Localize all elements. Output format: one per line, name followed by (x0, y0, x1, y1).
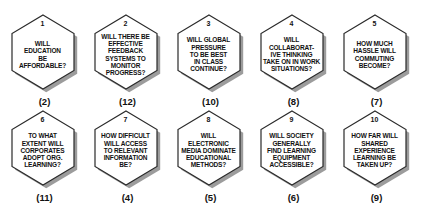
vote-count: (11) (36, 192, 52, 203)
hexagon-row-bottom: 6 TO WHAT EXTENT WILL CORPORATES ADOPT O… (0, 110, 424, 203)
hexagon-question: WILL THERE BE EFFECTIVE FEEDBACK SYSTEMS… (101, 33, 150, 77)
hexagon-shape: 3 WILL GLOBAL PRESSURE TO BE BEST IN CLA… (176, 14, 246, 94)
hexagon-number: 1 (41, 19, 45, 28)
hexagon-question: WILL GLOBAL PRESSURE TO BE BEST IN CLASS… (187, 36, 230, 72)
hexagon-question: WILL COLLABORAT- IVE THINKING TAKE ON IN… (263, 36, 320, 72)
hexagon-row-top: 1 WILL EDUCATION BE AFFORDABLE? (2) 2 WI… (0, 0, 424, 107)
hexagon-shape: 5 HOW MUCH HASSLE WILL COMMUTING BECOME? (342, 14, 412, 94)
hexagon-card: 5 HOW MUCH HASSLE WILL COMMUTING BECOME?… (335, 14, 418, 107)
hexagon-number: 4 (290, 19, 294, 28)
vote-count: (9) (371, 192, 383, 203)
hexagon-question: WILL ELECTRONIC MEDIA DOMINATE EDUCATION… (181, 132, 236, 168)
hexagon-content: 1 WILL EDUCATION BE AFFORDABLE? (12, 15, 74, 89)
hexagon-number: 7 (124, 115, 128, 124)
hexagon-shape: 1 WILL EDUCATION BE AFFORDABLE? (10, 14, 80, 94)
hexagon-shape: 10 HOW FAR WILL SHARED EXPERIENCE LEARNI… (342, 110, 412, 190)
hexagon-number: 8 (207, 115, 211, 124)
hexagon-content: 3 WILL GLOBAL PRESSURE TO BE BEST IN CLA… (178, 15, 240, 89)
hexagon-card: 1 WILL EDUCATION BE AFFORDABLE? (2) (3, 14, 86, 107)
hexagon-content: 6 TO WHAT EXTENT WILL CORPORATES ADOPT O… (12, 111, 74, 185)
hexagon-content: 2 WILL THERE BE EFFECTIVE FEEDBACK SYSTE… (95, 15, 157, 89)
hexagon-content: 8 WILL ELECTRONIC MEDIA DOMINATE EDUCATI… (178, 111, 240, 185)
hexagon-question-board: 1 WILL EDUCATION BE AFFORDABLE? (2) 2 WI… (0, 0, 424, 209)
hexagon-question: HOW MUCH HASSLE WILL COMMUTING BECOME? (353, 40, 395, 69)
vote-count: (4) (122, 192, 134, 203)
hexagon-number: 9 (290, 115, 294, 124)
hexagon-content: 7 HOW DIFFICULT WILL ACCESS TO RELEVANT … (95, 111, 157, 185)
hexagon-question: HOW DIFFICULT WILL ACCESS TO RELEVANT IN… (101, 132, 150, 168)
vote-count: (2) (39, 96, 51, 107)
hexagon-card: 3 WILL GLOBAL PRESSURE TO BE BEST IN CLA… (169, 14, 252, 107)
hexagon-shape: 4 WILL COLLABORAT- IVE THINKING TAKE ON … (259, 14, 329, 94)
hexagon-card: 7 HOW DIFFICULT WILL ACCESS TO RELEVANT … (86, 110, 169, 203)
vote-count: (5) (205, 192, 217, 203)
hexagon-number: 3 (207, 19, 211, 28)
vote-count: (12) (119, 96, 136, 107)
hexagon-card: 8 WILL ELECTRONIC MEDIA DOMINATE EDUCATI… (169, 110, 252, 203)
hexagon-content: 4 WILL COLLABORAT- IVE THINKING TAKE ON … (261, 15, 323, 89)
hexagon-question: TO WHAT EXTENT WILL CORPORATES ADOPT ORG… (21, 132, 65, 168)
hexagon-shape: 6 TO WHAT EXTENT WILL CORPORATES ADOPT O… (10, 110, 80, 190)
hexagon-number: 6 (41, 115, 45, 124)
hexagon-card: 4 WILL COLLABORAT- IVE THINKING TAKE ON … (252, 14, 335, 107)
hexagon-content: 10 HOW FAR WILL SHARED EXPERIENCE LEARNI… (344, 111, 406, 185)
hexagon-content: 9 WILL SOCIETY GENERALLY FIND LEARNING E… (261, 111, 323, 185)
vote-count: (7) (371, 96, 383, 107)
hexagon-question: WILL SOCIETY GENERALLY FIND LEARNING EQU… (267, 132, 316, 168)
hexagon-card: 10 HOW FAR WILL SHARED EXPERIENCE LEARNI… (335, 110, 418, 203)
vote-count: (6) (288, 192, 300, 203)
hexagon-shape: 2 WILL THERE BE EFFECTIVE FEEDBACK SYSTE… (93, 14, 163, 94)
hexagon-card: 9 WILL SOCIETY GENERALLY FIND LEARNING E… (252, 110, 335, 203)
hexagon-question: WILL EDUCATION BE AFFORDABLE? (19, 40, 66, 69)
hexagon-shape: 7 HOW DIFFICULT WILL ACCESS TO RELEVANT … (93, 110, 163, 190)
hexagon-content: 5 HOW MUCH HASSLE WILL COMMUTING BECOME? (344, 15, 406, 89)
vote-count: (8) (288, 96, 300, 107)
hexagon-shape: 9 WILL SOCIETY GENERALLY FIND LEARNING E… (259, 110, 329, 190)
hexagon-card: 2 WILL THERE BE EFFECTIVE FEEDBACK SYSTE… (86, 14, 169, 107)
hexagon-card: 6 TO WHAT EXTENT WILL CORPORATES ADOPT O… (3, 110, 86, 203)
hexagon-number: 10 (371, 115, 379, 124)
vote-count: (10) (202, 96, 219, 107)
hexagon-shape: 8 WILL ELECTRONIC MEDIA DOMINATE EDUCATI… (176, 110, 246, 190)
hexagon-question: HOW FAR WILL SHARED EXPERIENCE LEARNING … (351, 132, 398, 168)
hexagon-number: 5 (373, 19, 377, 28)
hexagon-number: 2 (124, 19, 128, 28)
